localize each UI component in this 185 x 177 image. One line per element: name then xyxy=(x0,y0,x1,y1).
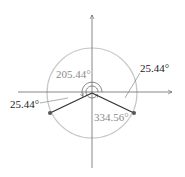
point-right xyxy=(132,111,136,115)
terminal-side-right xyxy=(92,93,134,113)
terminal-side-left xyxy=(50,93,92,113)
leader-left xyxy=(40,98,68,103)
label-ref-right: 25.44° xyxy=(140,62,169,74)
label-ref-left: 25.44° xyxy=(10,98,39,110)
point-left xyxy=(48,111,52,115)
label-334: 334.56° xyxy=(94,111,129,123)
label-205: 205.44° xyxy=(56,68,91,80)
leader-right xyxy=(125,73,140,98)
angle-diagram: 205.44° 334.56° 25.44° 25.44° xyxy=(0,0,185,177)
